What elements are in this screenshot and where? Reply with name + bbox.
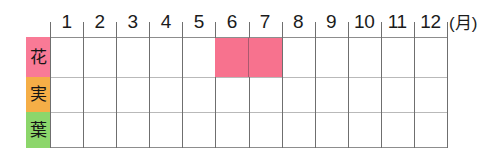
axis-tick bbox=[83, 22, 84, 38]
row-label-flower: 花 bbox=[26, 37, 50, 77]
axis-unit-label: (月) bbox=[449, 6, 477, 33]
flowering-period-bar bbox=[215, 38, 281, 77]
plot-area bbox=[50, 37, 447, 148]
flowering-calendar-chart: 1 2 3 4 5 6 7 8 9 10 11 12 (月) 花 実 葉 bbox=[0, 0, 497, 157]
axis-tick bbox=[50, 22, 51, 38]
axis-tick bbox=[249, 22, 250, 38]
row-label-column: 花 実 葉 bbox=[26, 37, 50, 148]
axis-tick bbox=[414, 22, 415, 38]
axis-tick bbox=[182, 22, 183, 38]
axis-tick-marks bbox=[50, 22, 447, 38]
axis-tick bbox=[381, 22, 382, 38]
month-gridline bbox=[282, 37, 283, 148]
month-gridline bbox=[447, 37, 448, 148]
month-gridline bbox=[381, 37, 382, 148]
axis-tick bbox=[315, 22, 316, 38]
axis-tick bbox=[149, 22, 150, 38]
axis-tick bbox=[447, 22, 448, 38]
row-label-fruit: 実 bbox=[26, 77, 50, 112]
month-gridline bbox=[83, 37, 84, 148]
axis-tick bbox=[215, 22, 216, 38]
axis-tick bbox=[282, 22, 283, 38]
month-gridline bbox=[149, 37, 150, 148]
bar-month-divider bbox=[248, 38, 249, 77]
month-gridline bbox=[50, 37, 51, 148]
month-gridline bbox=[116, 37, 117, 148]
month-gridline bbox=[182, 37, 183, 148]
row-label-leaf: 葉 bbox=[26, 112, 50, 148]
month-gridline bbox=[348, 37, 349, 148]
month-gridline bbox=[414, 37, 415, 148]
axis-tick bbox=[348, 22, 349, 38]
month-gridline bbox=[315, 37, 316, 148]
chart-grid-body: 花 実 葉 bbox=[26, 37, 447, 148]
axis-tick bbox=[116, 22, 117, 38]
